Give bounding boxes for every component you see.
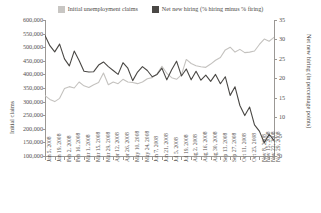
y-axis-right-tick-mark (275, 98, 277, 99)
x-axis-tick-label: Sep 27, 2008 (232, 133, 238, 162)
y-axis-left-tick-mark (43, 61, 45, 62)
y-axis-right-tick-mark (275, 20, 277, 21)
y-axis-left-tick-label: 300,000 (23, 99, 43, 105)
legend-swatch-claims (58, 6, 65, 13)
y-axis-right-tick-label: 30 (279, 36, 285, 42)
y-axis-left-tick-label: 400,000 (23, 71, 43, 77)
legend-label-hiring: Net new hiring (% hiring minus % firing) (162, 6, 263, 13)
x-axis: Jan 5, 2008Jan 19, 2008Feb 2, 2008Feb 16… (45, 157, 275, 213)
x-axis-tick-label: Aug 2, 2008 (193, 134, 199, 162)
chart-area: 600,000550,000500,000450,000400,000350,0… (0, 16, 321, 213)
y-axis-left-tick-mark (43, 129, 45, 130)
y-axis-right-tick-mark (275, 39, 277, 40)
y-axis-right-tick-label: 35 (279, 17, 285, 23)
y-axis-right-tick-mark (275, 117, 277, 118)
x-axis-tick-label: Jul 19, 2008 (184, 134, 190, 162)
y-axis-left-tick-label: 350,000 (23, 85, 43, 91)
x-axis-tick-label: Apr 12, 2008 (115, 132, 121, 162)
y-axis-left-tick-mark (43, 47, 45, 48)
line-net-new-hiring (45, 36, 274, 143)
y-axis-left-tick-label: 100,000 (23, 153, 43, 159)
x-axis-tick-label: Feb 2, 2008 (67, 135, 73, 162)
y-axis-right-tick-label: 15 (279, 95, 285, 101)
x-axis-tick-label: Jan 5, 2008 (47, 136, 53, 162)
line-initial-claims (45, 37, 274, 101)
y-axis-left-tick-label: 550,000 (23, 31, 43, 37)
y-axis-left-tick-label: 500,000 (23, 44, 43, 50)
y-axis-right-tick-mark (275, 137, 277, 138)
y-axis-right-tick-mark (275, 59, 277, 60)
y-axis-left-tick-mark (43, 34, 45, 35)
y-axis-left-title: Initial claims (8, 101, 15, 134)
x-axis-tick-label: May 24, 2008 (145, 131, 151, 162)
y-axis-left-tick-label: 250,000 (23, 112, 43, 118)
x-axis-tick-label: May 10, 2008 (135, 131, 141, 162)
x-axis-tick-label: Apr 26, 2008 (125, 132, 131, 162)
y-axis-left-tick-label: 600,000 (23, 17, 43, 23)
x-axis-tick-label: Feb 16, 2008 (76, 133, 82, 162)
y-axis-right-tick-label: 10 (279, 114, 285, 120)
y-axis-left-tick-mark (43, 20, 45, 21)
y-axis-left-tick-mark (43, 74, 45, 75)
y-axis-left-tick-label: 450,000 (23, 58, 43, 64)
y-axis-left: 600,000550,000500,000450,000400,000350,0… (8, 16, 43, 161)
legend-label-claims: Initial unemployment claims (68, 6, 138, 13)
y-axis-right-title: Net new hiring (in percentage points) (306, 34, 313, 128)
x-axis-tick-label: Jul 5, 2008 (174, 137, 180, 162)
x-axis-tick-label: Oct 25, 2008 (252, 133, 258, 162)
y-axis-right-tick-label: 25 (279, 56, 285, 62)
x-axis-tick-label: Oct 11, 2008 (242, 133, 248, 162)
y-axis-left-tick-label: 200,000 (23, 126, 43, 132)
legend-item-hiring: Net new hiring (% hiring minus % firing) (152, 6, 263, 13)
y-axis-right: 35302520151050 (279, 16, 301, 161)
x-axis-tick-label: Aug 16, 2008 (203, 131, 209, 162)
legend-swatch-hiring (152, 6, 159, 13)
y-axis-left-tick-label: 150,000 (23, 139, 43, 145)
y-axis-right-tick-mark (275, 78, 277, 79)
y-axis-left-tick-mark (43, 88, 45, 89)
x-axis-tick-label: Mar 1, 2008 (86, 135, 92, 163)
x-axis-tick-label: Jun 21, 2008 (164, 133, 170, 162)
chart-legend: Initial unemployment claims Net new hiri… (0, 2, 321, 16)
x-axis-tick-label: Jun 7, 2008 (154, 136, 160, 162)
y-axis-left-tick-mark (43, 102, 45, 103)
y-axis-right-tick-label: 20 (279, 75, 285, 81)
x-axis-tick-label: Sep 13, 2008 (223, 133, 229, 162)
y-axis-right-tick-mark (275, 156, 277, 157)
x-axis-tick-label: Aug 30, 2008 (213, 131, 219, 162)
x-axis-tick-label: Mar 29, 2008 (106, 132, 112, 162)
x-axis-tick-label: Nov 29, 2008 (276, 131, 282, 162)
x-axis-tick-label: Jan 19, 2008 (57, 134, 63, 162)
y-axis-left-tick-mark (43, 115, 45, 116)
y-axis-left-tick-mark (43, 142, 45, 143)
x-axis-tick-label: Mar 15, 2008 (96, 132, 102, 162)
legend-item-claims: Initial unemployment claims (58, 6, 138, 13)
y-axis-left-tick-mark (43, 156, 45, 157)
